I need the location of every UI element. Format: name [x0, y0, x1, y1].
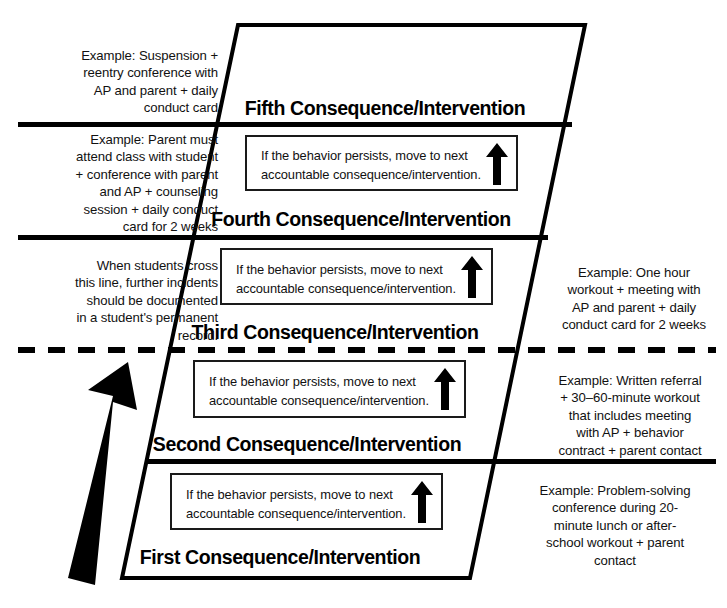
example-note-third: Example: One hour workout + meeting with…	[548, 264, 720, 334]
persist-message-third: If the behavior persists, move to next a…	[236, 261, 461, 298]
persist-arrow-icon-second	[434, 368, 456, 410]
persist-message-fourth: If the behavior persists, move to next a…	[261, 147, 486, 184]
example-note-first: Example: Problem-solving conference duri…	[520, 482, 710, 569]
persist-arrow-icon-fourth	[486, 143, 508, 185]
level-heading-second: Second Consequence/Intervention	[122, 432, 492, 458]
example-note-second: Example: Written referral + 30–60-minute…	[540, 372, 720, 459]
example-note-fourth: Example: Parent must attend class with s…	[20, 131, 218, 236]
persist-arrow-icon-third	[461, 256, 483, 298]
persist-arrow-icon-first	[411, 481, 433, 523]
level-heading-fifth: Fifth Consequence/Intervention	[200, 96, 570, 122]
example-note-fifth: Example: Suspension + reentry conference…	[28, 47, 218, 117]
documentation-note: When students cross this line, further i…	[18, 257, 218, 344]
diagram-canvas: Fifth Consequence/Intervention Fourth Co…	[0, 0, 727, 608]
level-heading-fourth: Fourth Consequence/Intervention	[176, 207, 546, 233]
persist-message-second: If the behavior persists, move to next a…	[209, 373, 434, 410]
persist-message-first: If the behavior persists, move to next a…	[186, 486, 411, 523]
level-heading-first: First Consequence/Intervention	[95, 545, 465, 571]
